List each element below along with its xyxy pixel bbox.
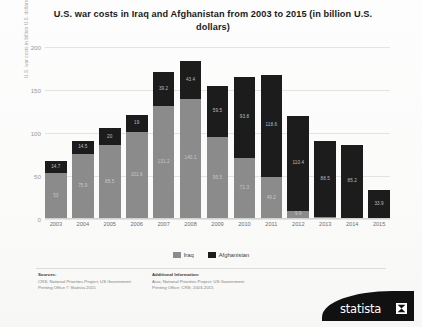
bar-segment[interactable]: 39.2	[153, 72, 175, 106]
bar-column[interactable]: 110.49.9	[287, 47, 309, 219]
statista-logo: statista	[322, 291, 414, 321]
bar-segment[interactable]: 140.1	[180, 99, 202, 219]
bar-segment[interactable]: 85.2	[341, 145, 363, 218]
y-axis-tick-label: 0	[21, 216, 41, 223]
bar-value-label: 118.6	[266, 123, 278, 128]
page-title: U.S. war costs in Iraq and Afghanistan f…	[38, 8, 388, 33]
bar-segment[interactable]: 131.2	[153, 106, 175, 219]
bar-segment[interactable]: 101.6	[126, 132, 148, 219]
chart-page: U.S. war costs in Iraq and Afghanistan f…	[0, 0, 422, 327]
bar-value-label: 85.5	[105, 180, 114, 185]
bar-value-label: 75.9	[78, 184, 87, 189]
bar-value-label: 93.8	[240, 115, 249, 120]
bar-value-label: 20	[107, 135, 112, 140]
bar-segment[interactable]: 75.9	[72, 154, 94, 219]
bar-segment[interactable]: 53	[45, 173, 67, 219]
bar-value-label: 14.7	[51, 165, 60, 170]
y-axis-tick-label: 200	[21, 44, 41, 51]
x-axis-tick-label: 2011	[261, 221, 283, 227]
bar-column[interactable]: 88.5	[314, 47, 336, 219]
x-axis-tick-label: 2009	[207, 221, 229, 227]
chart-legend[interactable]: IraqAfghanistan	[0, 252, 422, 258]
x-axis-tick-label: 2014	[341, 221, 363, 227]
legend-label: Iraq	[184, 252, 194, 258]
bar-segment[interactable]: 118.6	[261, 75, 283, 177]
bar-column[interactable]: 43.4140.1	[180, 47, 202, 219]
bar-value-label: 19	[134, 121, 139, 126]
bar-column[interactable]: 19101.6	[126, 47, 148, 219]
bar-value-label: 110.4	[292, 161, 304, 166]
bar-segment[interactable]: 49.2	[261, 177, 283, 219]
iraq-swatch	[173, 252, 181, 258]
x-axis-tick-label: 2005	[99, 221, 121, 227]
bar-value-label: 71.3	[240, 186, 249, 191]
afghanistan-swatch	[208, 252, 216, 258]
bar-column[interactable]: 14.753	[45, 47, 67, 219]
bar-group: 14.75314.575.92085.519101.639.2131.243.4…	[45, 47, 390, 219]
bar-column[interactable]: 2085.5	[99, 47, 121, 219]
bar-segment[interactable]: 14.5	[72, 141, 94, 153]
footer-divider	[36, 268, 386, 269]
additional-info-text: Asia; National Priorities Project; US Go…	[152, 279, 244, 290]
bar-value-label: 95.5	[213, 176, 222, 181]
bar-segment[interactable]: 33.9	[368, 190, 390, 219]
bar-segment[interactable]: 85.5	[99, 145, 121, 219]
bar-value-label: 33.9	[374, 202, 383, 207]
additional-info-heading: Additional Information:	[152, 272, 257, 278]
x-axis-tick-label: 2004	[72, 221, 94, 227]
y-axis-tick-label: 100	[21, 130, 41, 137]
x-axis-tick-label: 2015	[368, 221, 390, 227]
bar-column[interactable]: 39.2131.2	[153, 47, 175, 219]
bar-value-label: 88.5	[321, 177, 330, 182]
legend-item[interactable]: Afghanistan	[208, 252, 250, 258]
x-axis-tick-label: 2008	[180, 221, 202, 227]
bar-value-label: 14.5	[78, 145, 87, 150]
gridline	[45, 219, 390, 220]
bar-value-label: 49.2	[267, 196, 276, 201]
bar-value-label: 43.4	[186, 78, 195, 83]
bar-column[interactable]: 33.9	[368, 47, 390, 219]
legend-item[interactable]: Iraq	[173, 252, 194, 258]
x-axis-tick-label: 2007	[153, 221, 175, 227]
bar-column[interactable]: 93.871.3	[234, 47, 256, 219]
y-axis-tick-label: 150	[21, 87, 41, 94]
bar-value-label: 59.5	[213, 109, 222, 114]
logo-wordmark: statista	[340, 302, 381, 316]
y-axis-title: U.S. war costs in billion U.S. dollars	[24, 0, 29, 78]
bar-value-label: 140.1	[185, 156, 197, 161]
bar-column[interactable]: 59.595.5	[207, 47, 229, 219]
bar-value-label: 53	[53, 194, 58, 199]
x-axis-labels: 2003200420052006200720082009201020112012…	[45, 221, 390, 227]
legend-label: Afghanistan	[219, 252, 250, 258]
bar-column[interactable]: 118.649.2	[261, 47, 283, 219]
x-axis-tick-label: 2013	[314, 221, 336, 227]
x-axis-tick-label: 2006	[126, 221, 148, 227]
bar-value-label: 101.6	[131, 173, 143, 178]
sources-heading: Sources:	[38, 272, 143, 278]
bar-value-label: 131.2	[158, 160, 170, 165]
bar-segment[interactable]: 19	[126, 115, 148, 131]
bar-column[interactable]: 14.575.9	[72, 47, 94, 219]
x-axis-tick-label: 2010	[234, 221, 256, 227]
x-axis-line	[45, 218, 390, 219]
bar-segment[interactable]: 43.4	[180, 61, 202, 98]
x-axis-tick-label: 2012	[287, 221, 309, 227]
bar-segment[interactable]: 95.5	[207, 137, 229, 219]
bar-segment[interactable]: 93.8	[234, 77, 256, 158]
bar-segment[interactable]: 110.4	[287, 116, 309, 211]
sources-block: Sources: CRS; National Priorities Projec…	[38, 272, 143, 291]
bar-value-label: 9.9	[295, 212, 302, 217]
x-axis-tick-label: 2003	[45, 221, 67, 227]
sources-text: CRS; National Priorities Project; US Gov…	[38, 279, 131, 290]
bar-segment[interactable]: 71.3	[234, 158, 256, 219]
bar-segment[interactable]: 20	[99, 128, 121, 145]
plot-area: 050100150200 14.75314.575.92085.519101.6…	[45, 47, 390, 219]
bar-segment[interactable]: 14.7	[45, 161, 67, 174]
bar-value-label: 85.2	[348, 179, 357, 184]
bar-segment[interactable]: 59.5	[207, 86, 229, 137]
y-axis-tick-label: 50	[21, 173, 41, 180]
bar-column[interactable]: 85.2	[341, 47, 363, 219]
bar-segment[interactable]: 88.5	[314, 141, 336, 217]
additional-info-block: Additional Information: Asia; National P…	[152, 272, 257, 291]
bar-value-label: 39.2	[159, 87, 168, 92]
